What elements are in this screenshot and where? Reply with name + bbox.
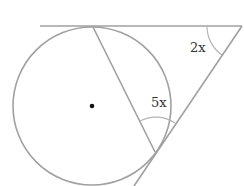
label-5x: 5x <box>151 95 167 110</box>
angle-arc-2x <box>207 26 222 55</box>
label-2x: 2x <box>190 40 206 55</box>
center-point <box>90 104 95 109</box>
chord-line <box>93 27 155 152</box>
geometry-diagram: 2x 5x <box>0 0 244 186</box>
